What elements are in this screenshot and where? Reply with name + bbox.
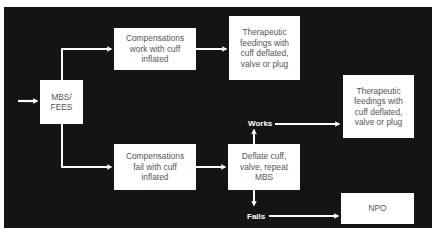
- node-mbs-fees: MBS/ FEES: [40, 80, 83, 124]
- node-compensations-fail: Compensations fail with cuff inflated: [114, 144, 196, 190]
- node-therapeutic-top: Therapeutic feedings with cuff deflated,…: [229, 16, 300, 80]
- node-deflate-cuff: Deflate cuff, valve, repeat MBS: [228, 144, 300, 190]
- arrow-start-to-comp-work: [62, 49, 111, 80]
- arrow-start-to-comp-fail: [62, 124, 111, 167]
- node-therapeutic-right: Therapeutic feedings with cuff deflated,…: [343, 75, 414, 138]
- edge-label-works: Works: [248, 119, 272, 128]
- edge-label-fails: Fails: [247, 212, 265, 221]
- node-npo: NPO: [341, 193, 414, 224]
- node-compensations-work: Compensations work with cuff inflated: [114, 28, 196, 70]
